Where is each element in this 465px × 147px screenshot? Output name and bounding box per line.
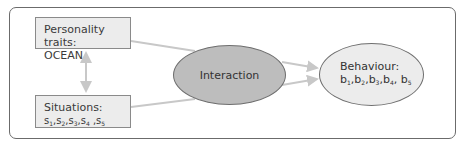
edge-interaction-behaviour-1 xyxy=(282,62,317,68)
edge-situations-interaction xyxy=(131,99,195,107)
situation-item: s4 , xyxy=(81,115,96,126)
interaction-label: Interaction xyxy=(200,69,260,82)
situation-item: s2, xyxy=(56,115,68,126)
node-behaviour: Behaviour: b1,b2,b3,b4, b5 xyxy=(319,43,424,106)
situation-item: s5 xyxy=(96,115,105,126)
behaviour-item: b1, xyxy=(340,73,354,86)
situations-list: s1,s2,s3,s4 ,s5 xyxy=(44,114,130,130)
node-situations: Situations: s1,s2,s3,s4 ,s5 xyxy=(35,95,131,128)
behaviour-item: b4, xyxy=(383,73,401,86)
behaviour-list: b1,b2,b3,b4, b5 xyxy=(340,73,412,89)
personality-subtitle: OCEAN xyxy=(44,49,130,62)
node-interaction: Interaction xyxy=(173,45,286,105)
situation-item: s3, xyxy=(68,115,80,126)
behaviour-item: b2, xyxy=(354,73,368,86)
node-personality-traits: Personality traits: OCEAN xyxy=(35,17,131,49)
behaviour-item: b3, xyxy=(369,73,383,86)
situation-item: s1, xyxy=(44,115,56,126)
edge-interaction-behaviour-2 xyxy=(282,79,317,85)
behaviour-title: Behaviour: xyxy=(340,60,412,73)
behaviour-item: b5 xyxy=(401,73,412,86)
personality-title: Personality traits: xyxy=(44,23,130,49)
edge-personality-interaction xyxy=(131,41,195,51)
situations-title: Situations: xyxy=(44,101,130,114)
